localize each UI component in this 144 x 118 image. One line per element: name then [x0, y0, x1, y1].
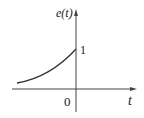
exponential-curve — [17, 49, 76, 83]
y-axis-arrow-icon — [74, 9, 78, 16]
y-tick-label: 1 — [80, 43, 86, 58]
y-axis-label: e(t) — [56, 6, 73, 21]
x-axis-label: t — [128, 93, 132, 109]
x-axis-arrow-icon — [130, 87, 137, 91]
origin-label: 0 — [64, 94, 71, 110]
